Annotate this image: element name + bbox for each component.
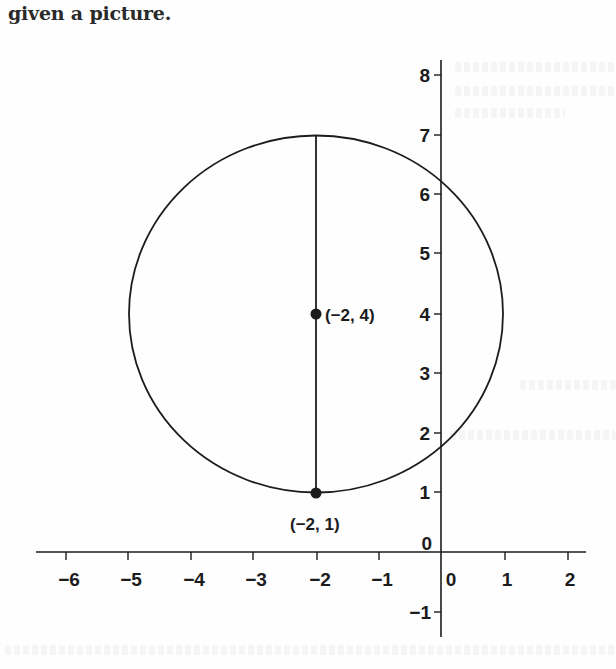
y-label-zero: 0 [421, 533, 432, 554]
x-label-zero: 0 [446, 569, 457, 590]
y-label-3: 3 [419, 363, 430, 384]
x-tick-labels: −6 −5 −4 −3 −2 −1 0 1 2 [58, 569, 575, 590]
bottom-point-label: (−2, 1) [290, 515, 340, 534]
y-label-6: 6 [419, 184, 430, 205]
y-label-4: 4 [419, 304, 430, 325]
x-label-neg2: −2 [309, 569, 331, 590]
x-label-1: 1 [502, 569, 513, 590]
y-tick-labels: 8 7 6 5 4 3 2 1 0 −1 [409, 65, 432, 623]
y-label-8: 8 [419, 65, 430, 86]
center-point [311, 309, 322, 320]
y-label-1: 1 [419, 482, 430, 503]
axes [36, 60, 586, 637]
y-label-7: 7 [419, 125, 430, 146]
x-label-neg6: −6 [58, 569, 80, 590]
center-point-label: (−2, 4) [325, 306, 375, 325]
coordinate-graph: −6 −5 −4 −3 −2 −1 0 1 2 8 7 6 5 4 3 2 1 … [0, 0, 616, 669]
y-ticks [434, 75, 441, 612]
y-label-neg1: −1 [409, 602, 431, 623]
x-ticks [66, 552, 568, 560]
x-label-2: 2 [565, 569, 576, 590]
x-label-neg4: −4 [183, 569, 205, 590]
bottom-point [311, 488, 322, 499]
y-label-2: 2 [419, 423, 430, 444]
x-label-neg3: −3 [245, 569, 267, 590]
x-label-neg5: −5 [120, 569, 142, 590]
y-label-5: 5 [419, 243, 430, 264]
x-label-neg1: −1 [371, 569, 393, 590]
